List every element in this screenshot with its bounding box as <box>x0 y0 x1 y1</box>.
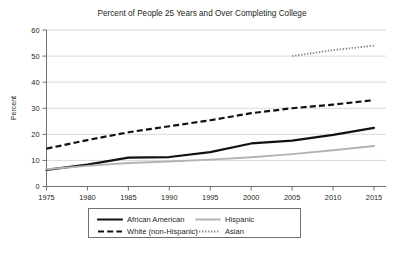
legend-label-african-american[interactable]: African American <box>127 215 184 224</box>
x-tick-label-1995: 1995 <box>202 193 218 202</box>
x-tick-label-2005: 2005 <box>284 193 300 202</box>
x-tick-label-1980: 1980 <box>79 193 95 202</box>
y-tick-label-0: 0 <box>35 182 39 191</box>
x-tick-label-2010: 2010 <box>325 193 341 202</box>
college-completion-line-chart: Percent of People 25 Years and Over Comp… <box>0 0 404 253</box>
y-tick-label-50: 50 <box>31 52 39 61</box>
y-tick-label-40: 40 <box>31 78 39 87</box>
x-tick-label-1975: 1975 <box>38 193 54 202</box>
x-tick-label-1985: 1985 <box>120 193 136 202</box>
chart-container: Percent of People 25 Years and Over Comp… <box>0 0 404 253</box>
y-tick-label-20: 20 <box>31 130 39 139</box>
y-axis-label: Percent <box>10 96 17 120</box>
y-tick-label-30: 30 <box>31 104 39 113</box>
y-tick-label-10: 10 <box>31 156 39 165</box>
x-tick-label-2000: 2000 <box>243 193 259 202</box>
legend-label-hispanic[interactable]: Hispanic <box>225 215 254 224</box>
legend-label-asian[interactable]: Asian <box>225 227 244 236</box>
y-tick-label-60: 60 <box>31 26 39 35</box>
chart-title: Percent of People 25 Years and Over Comp… <box>98 9 307 18</box>
x-tick-label-1990: 1990 <box>161 193 177 202</box>
legend-label-white-non-hispanic[interactable]: White (non-Hispanic) <box>127 227 198 236</box>
x-tick-label-2015: 2015 <box>366 193 382 202</box>
